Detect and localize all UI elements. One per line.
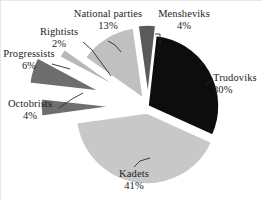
label-trudoviks-name: Trudoviks [213,72,257,83]
label-national-parties-name: National parties [74,8,142,19]
label-octobrists-pct: 4% [2,110,58,122]
label-kadets-pct: 41% [106,180,162,192]
label-progressists: Progressists 6% [2,48,56,71]
label-trudoviks: Trudoviks 30% [213,72,262,95]
label-octobrists-name: Octobrists [8,98,52,109]
pie-chart-figure: National parties 13% Mensheviks 4% Right… [0,0,262,199]
label-mensheviks-name: Mensheviks [158,8,210,19]
label-progressists-pct: 6% [2,60,56,72]
label-kadets: Kadets 41% [106,168,162,191]
label-rightists: Rightists 2% [32,26,86,49]
label-rightists-name: Rightists [40,26,78,37]
label-progressists-name: Progressists [3,48,54,59]
label-trudoviks-pct: 30% [213,84,262,96]
label-kadets-name: Kadets [119,168,149,179]
label-mensheviks: Mensheviks 4% [148,8,220,31]
label-octobrists: Octobrists 4% [2,98,58,121]
label-mensheviks-pct: 4% [148,20,220,32]
